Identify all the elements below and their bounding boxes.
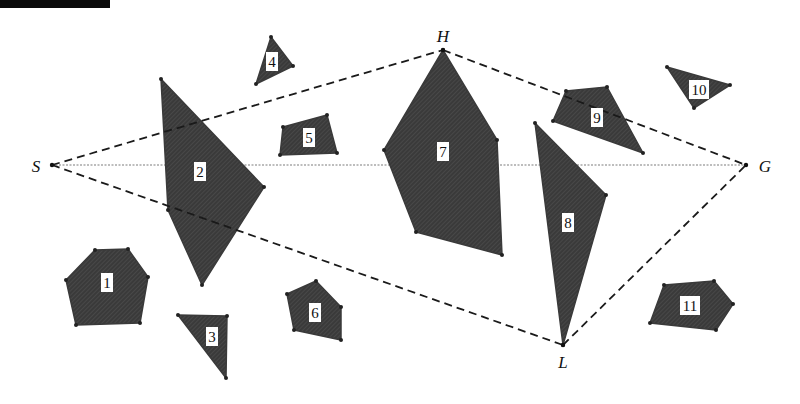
obstacle-vertex [564,89,568,93]
obstacle-vertex [648,321,652,325]
obstacle-vertex [665,65,669,69]
obstacle-vertex [335,151,339,155]
point-s-marker [50,163,54,167]
obstacle-vertex [93,248,97,252]
obstacle-vertex [731,302,735,306]
point-g-marker [744,163,748,167]
obstacle-vertex [712,279,716,283]
obstacle-vertex [262,185,266,189]
obstacle-vertex [662,283,666,287]
obstacle-vertex [146,275,150,279]
obstacle-vertex [224,376,228,380]
obstacle-label: 2 [196,164,204,180]
obstacle-vertex [74,323,78,327]
obstacle-vertex [138,321,142,325]
dashed-path-s-h [52,50,443,165]
obstacle-vertex [292,328,296,332]
point-label-g: G [759,157,771,176]
obstacle-label: 8 [564,215,572,231]
obstacle-vertex [64,278,68,282]
obstacle-vertex [533,121,537,125]
obstacle-vertex [126,247,130,251]
obstacle-vertex [728,83,732,87]
obstacle-vertex [254,82,258,86]
obstacle-label: 7 [439,144,447,160]
obstacle-layer [64,35,735,380]
obstacle-vertex [714,328,718,332]
obstacle-vertex [159,77,163,81]
obstacle-label: 11 [683,298,697,314]
obstacle-vertex [339,305,343,309]
obstacle-8 [535,123,606,345]
point-label-l: L [557,353,567,372]
point-l-marker [561,343,565,347]
point-label-s: S [32,157,41,176]
obstacle-vertex [269,35,273,39]
dashed-path-layer [52,50,746,345]
obstacle-vertex [278,153,282,157]
obstacle-2 [161,79,264,285]
obstacle-label: 10 [692,82,707,98]
obstacle-vertex [225,314,229,318]
point-h-marker [441,48,445,52]
obstacle-vertex [325,113,329,117]
obstacle-vertex [604,193,608,197]
obstacle-vertex [339,338,343,342]
obstacle-vertex [382,148,386,152]
obstacle-vertex [414,230,418,234]
obstacle-vertex [495,138,499,142]
obstacle-label: 6 [311,305,319,321]
obstacle-vertex [285,292,289,296]
obstacle-vertex [605,85,609,89]
obstacle-vertex [176,313,180,317]
obstacle-label: 1 [103,275,111,291]
obstacle-label: 3 [208,329,216,345]
obstacle-vertex [281,125,285,129]
point-label-h: H [436,27,451,46]
obstacle-vertex [551,119,555,123]
path-planning-diagram: 1234567891011 SHGL [0,0,800,404]
obstacle-label: 9 [593,110,601,126]
obstacle-vertex [314,279,318,283]
obstacle-vertex [692,106,696,110]
obstacle-vertex [291,64,295,68]
obstacle-3 [178,315,227,378]
obstacle-vertex [166,208,170,212]
obstacle-label: 4 [268,54,276,70]
obstacle-vertex [500,253,504,257]
obstacle-label: 5 [305,130,313,146]
obstacle-vertex [200,283,204,287]
obstacle-vertex [641,151,645,155]
